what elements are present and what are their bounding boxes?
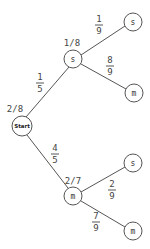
node-s: s	[64, 50, 82, 68]
fraction-numerator: 8	[107, 55, 112, 65]
fraction-denominator: 5	[37, 84, 42, 94]
sm-node-label: m	[132, 89, 137, 98]
node-m-m: m	[124, 222, 142, 240]
fraction-numerator: 7	[93, 211, 98, 221]
m-count-label: 2/7	[65, 176, 81, 186]
root-count-label: 2/8	[7, 104, 23, 114]
fraction-denominator: 9	[109, 191, 114, 201]
edge-prob-m-m: 7 9	[92, 211, 100, 233]
fraction-denominator: 5	[52, 155, 57, 165]
fraction-denominator: 9	[96, 26, 101, 36]
edge-start-s	[26, 67, 69, 117]
edge-prob-s-s: 1 9	[95, 14, 103, 36]
edge-prob-start-m: 4 5	[51, 143, 59, 165]
fraction-denominator: 9	[93, 223, 98, 233]
start-node-label: Start	[14, 123, 30, 129]
mm-node-label: m	[131, 227, 136, 236]
fraction-numerator: 2	[109, 179, 114, 189]
edge-prob-m-s: 2 9	[108, 179, 116, 201]
node-s-s: s	[124, 13, 142, 31]
ss-node-label: s	[131, 18, 136, 27]
fraction-denominator: 9	[107, 67, 112, 77]
edge-prob-start-s: 1 5	[36, 72, 44, 94]
node-start: Start	[12, 116, 32, 136]
edge-prob-s-m: 8 9	[106, 55, 114, 77]
probability-tree: 1 5 4 5 1 9 8 9 2 9 7 9 2/8 1/8 2/7 Star…	[0, 0, 150, 249]
s-count-label: 1/8	[64, 38, 80, 48]
edge-m-s	[81, 167, 125, 192]
m-node-label: m	[71, 192, 76, 201]
fraction-numerator: 4	[52, 143, 57, 153]
edge-s-m	[81, 64, 126, 89]
node-m: m	[64, 187, 82, 205]
edge-s-s	[81, 26, 125, 55]
edge-m-m	[81, 201, 125, 227]
node-s-m: m	[125, 84, 143, 102]
fraction-numerator: 1	[37, 72, 42, 82]
s-node-label: s	[71, 55, 76, 64]
fraction-numerator: 1	[96, 14, 101, 24]
edge-start-m	[27, 135, 68, 188]
ms-node-label: s	[131, 159, 136, 168]
node-m-s: s	[124, 154, 142, 172]
